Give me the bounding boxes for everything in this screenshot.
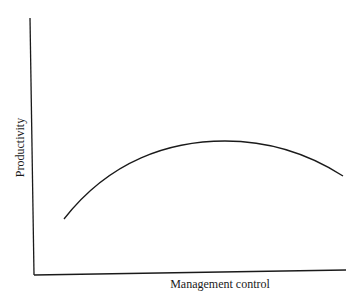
y-axis xyxy=(30,18,34,275)
y-axis-label: Productivity xyxy=(13,108,28,188)
chart-canvas xyxy=(0,0,359,305)
x-axis-label: Management control xyxy=(110,277,330,292)
productivity-curve xyxy=(64,141,343,219)
x-axis xyxy=(34,270,346,275)
